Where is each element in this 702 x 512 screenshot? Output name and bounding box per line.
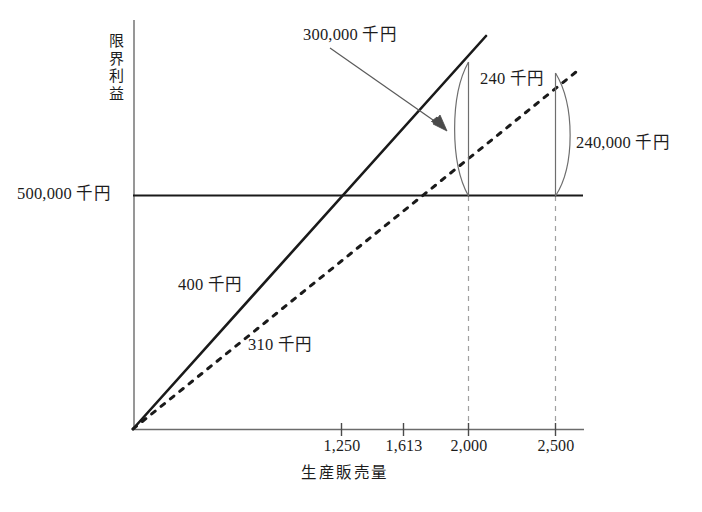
annotation-unit-310: 310 千円 <box>248 336 312 355</box>
callout-arrow-300000 <box>330 48 447 131</box>
annotation-margin-300000: 300,000 千円 <box>303 26 397 45</box>
margin-line-310-dashed <box>133 72 576 429</box>
brace-2000-arc <box>455 62 469 196</box>
y-tick-label-500000: 500,000 千円 <box>17 185 111 204</box>
annotation-unit-400: 400 千円 <box>178 276 242 295</box>
annotation-margin-240000: 240,000 千円 <box>576 134 670 153</box>
brace-2000 <box>455 62 469 196</box>
annotation-unit-240: 240 千円 <box>480 70 544 89</box>
brace-2500-arc <box>556 73 571 196</box>
marginal-profit-chart: 限界利益 500,000 千円 300,000 千円 240 千円 240,00… <box>0 0 702 512</box>
x-tick-label-1613: 1,613 <box>386 437 423 455</box>
x-tick-label-2000: 2,000 <box>451 437 488 455</box>
brace-2500 <box>556 73 571 196</box>
margin-line-400-solid <box>133 36 486 429</box>
y-axis-label: 限界利益 <box>100 33 122 103</box>
x-tick-label-2500: 2,500 <box>538 437 575 455</box>
x-axis-label: 生産販売量 <box>301 464 389 482</box>
x-tick-label-1250: 1,250 <box>324 437 361 455</box>
